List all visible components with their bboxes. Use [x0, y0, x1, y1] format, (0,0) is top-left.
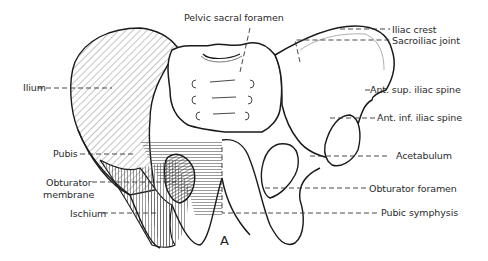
label-ischium: Ischium: [70, 208, 106, 219]
label-sacroiliac-joint: Sacroiliac joint: [392, 35, 460, 46]
sacrum: [168, 43, 282, 132]
label-obturator-membrane-line1: Obturator: [46, 177, 92, 188]
label-ilium: Ilium: [23, 82, 46, 93]
label-obturator-membrane-line2: membrane: [43, 189, 94, 200]
label-pubis: Pubis: [53, 148, 78, 159]
pelvis-diagram: Pelvic sacral foramen Iliac crest Sacroi…: [0, 0, 488, 261]
label-ant-sup-iliac-spine: Ant. sup. iliac spine: [370, 84, 461, 95]
label-iliac-crest: Iliac crest: [392, 24, 436, 35]
label-pelvic-sacral-foramen: Pelvic sacral foramen: [184, 12, 284, 23]
label-obturator-foramen: Obturator foramen: [369, 183, 457, 194]
right-obturator-foramen: [261, 144, 298, 198]
label-ant-inf-iliac-spine: Ant. inf. iliac spine: [377, 112, 462, 123]
panel-label: A: [220, 233, 229, 248]
label-pubic-symphysis: Pubic symphysis: [381, 207, 458, 218]
label-acetabulum: Acetabulum: [396, 150, 452, 161]
